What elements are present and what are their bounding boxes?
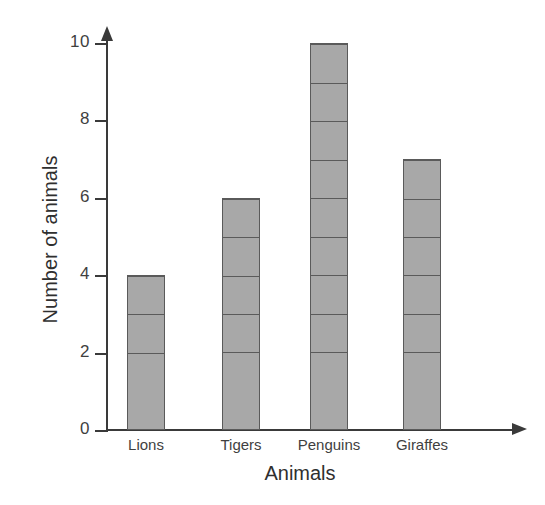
bar-unit-square (404, 314, 440, 352)
bar-unit-square (223, 314, 259, 352)
bar-unit-square (223, 276, 259, 314)
bar-unit-square (223, 352, 259, 390)
bar-unit-square (404, 237, 440, 275)
bar-unit-square (128, 353, 164, 391)
bar-unit-square (128, 314, 164, 352)
y-axis-tick-mark (95, 353, 108, 355)
y-axis-tick-mark (95, 275, 108, 277)
bar-unit-square (404, 391, 440, 429)
bar-unit-square (311, 391, 347, 430)
bar-unit-square (128, 391, 164, 429)
bar-unit-square (128, 276, 164, 314)
bar-unit-square (404, 352, 440, 390)
bar-unit-square (223, 199, 259, 237)
bar-lions (127, 275, 165, 430)
y-axis-tick-mark (95, 198, 108, 200)
y-axis-arrow-icon (101, 26, 113, 41)
bar-unit-square (311, 198, 347, 237)
bar-unit-square (311, 314, 347, 353)
x-axis-category-label: Giraffes (367, 436, 477, 453)
y-axis-title: Number of animals (39, 115, 62, 365)
bar-unit-square (311, 44, 347, 83)
y-axis-tick-mark (95, 43, 108, 45)
bar-tigers (222, 198, 260, 430)
x-axis-title: Animals (180, 462, 420, 485)
bar-giraffes (403, 159, 441, 430)
bar-unit-square (311, 160, 347, 199)
bar-unit-square (223, 391, 259, 429)
bar-unit-square (404, 199, 440, 237)
bar-unit-square (311, 83, 347, 122)
bar-unit-square (404, 160, 440, 198)
y-axis-tick-label: 0 (50, 419, 90, 439)
bar-unit-square (311, 237, 347, 276)
chart-screenshot: 0246810 LionsTigersPenguinsGiraffes Anim… (0, 0, 545, 505)
bar-unit-square (223, 237, 259, 275)
bar-chart-plot: 0246810 LionsTigersPenguinsGiraffes Anim… (0, 0, 545, 505)
x-axis-arrow-icon (512, 423, 527, 435)
bar-penguins (310, 43, 348, 430)
bar-unit-square (404, 275, 440, 313)
bar-unit-square (311, 121, 347, 160)
bar-unit-square (311, 352, 347, 391)
y-axis-tick-mark (95, 120, 108, 122)
bar-unit-square (311, 275, 347, 314)
y-axis-line (106, 40, 108, 431)
y-axis-tick-mark (95, 430, 108, 432)
y-axis-tick-label: 10 (50, 32, 90, 52)
x-axis-category-label: Lions (91, 436, 201, 453)
